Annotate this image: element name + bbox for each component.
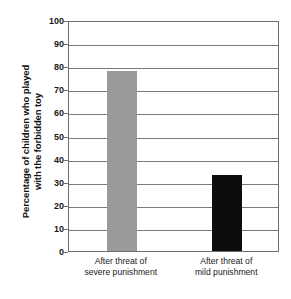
plot-area: [68, 21, 279, 252]
y-tick-label: 60: [38, 109, 64, 118]
bar: [212, 175, 242, 251]
y-axis-tick-labels: 1009080706050403020100: [38, 21, 64, 252]
x-axis-category-labels: After threat of severe punishmentAfter t…: [68, 256, 279, 296]
x-category-label: After threat of severe punishment: [68, 256, 174, 278]
y-tick-label: 20: [38, 201, 64, 210]
y-tick-label: 80: [38, 63, 64, 72]
y-tick-label: 50: [38, 132, 64, 141]
y-tick-label: 10: [38, 224, 64, 233]
x-category-label: After threat of mild punishment: [174, 256, 280, 278]
y-tick-mark: [63, 252, 68, 253]
bar: [107, 71, 137, 251]
bars-layer: [69, 22, 278, 251]
y-tick-label: 100: [38, 17, 64, 26]
y-tick-label: 70: [38, 86, 64, 95]
y-tick-label: 90: [38, 40, 64, 49]
y-tick-label: 0: [38, 248, 64, 257]
y-tick-label: 40: [38, 155, 64, 164]
bar-chart: Percentage of children who played with t…: [0, 0, 291, 299]
y-tick-label: 30: [38, 178, 64, 187]
